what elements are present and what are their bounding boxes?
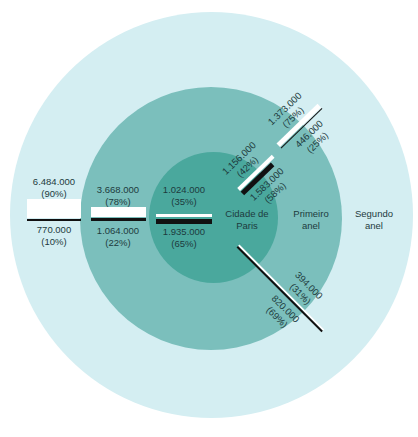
- center-left-black-label: 1.935.000 (65%): [156, 226, 212, 250]
- zone-label-ring2-line1: Segundo: [350, 208, 398, 220]
- zone-label-center: Cidade de Paris: [219, 208, 275, 232]
- value-text: 6.484.000: [26, 176, 82, 188]
- ring1-left-black-label: 1.064.000 (22%): [90, 225, 146, 249]
- ring2-left-black-label: 770.000 (10%): [26, 224, 82, 248]
- value-text: 770.000: [26, 224, 82, 236]
- center-left-white-label: 1.024.000 (35%): [156, 184, 212, 208]
- ring1-left-black-bar: [91, 218, 146, 221]
- center-left-white-bar: [156, 214, 212, 217]
- pct-text: (22%): [90, 237, 146, 249]
- zone-label-center-line2: Paris: [219, 220, 275, 232]
- value-text: 1.064.000: [90, 225, 146, 237]
- value-text: 3.668.000: [90, 184, 146, 196]
- ring2-left-white-bar: [27, 199, 81, 218]
- zone-label-ring1-line2: anel: [286, 220, 336, 232]
- ring2-left-black-bar: [27, 219, 81, 221]
- zone-label-ring2: Segundo anel: [350, 208, 398, 232]
- center-left-black-bar: [156, 219, 212, 224]
- pct-text: (65%): [156, 238, 212, 250]
- pct-text: (10%): [26, 236, 82, 248]
- value-text: 1.024.000: [156, 184, 212, 196]
- ring1-left-white-label: 3.668.000 (78%): [90, 184, 146, 208]
- pct-text: (35%): [156, 196, 212, 208]
- ring1-left-white-bar: [91, 207, 146, 217]
- zone-label-ring1: Primeiro anel: [286, 208, 336, 232]
- zone-label-ring1-line1: Primeiro: [286, 208, 336, 220]
- ring2-left-white-label: 6.484.000 (90%): [26, 176, 82, 200]
- value-text: 1.935.000: [156, 226, 212, 238]
- zone-label-ring2-line2: anel: [350, 220, 398, 232]
